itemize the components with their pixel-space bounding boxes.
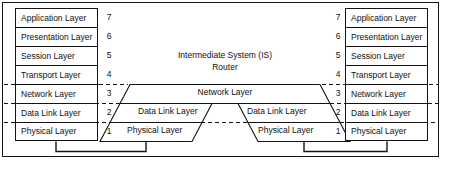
layer-label: Presentation Layer — [346, 33, 422, 42]
osi-layer-diagram: Application Layer Presentation Layer Ses… — [0, 0, 449, 172]
layer-label: Application Layer — [346, 14, 416, 23]
layer-label: Data Link Layer — [16, 109, 81, 118]
layer-label: Application Layer — [16, 14, 86, 23]
layer-box-network-left[interactable]: Network Layer — [15, 84, 98, 103]
is-physical-right-label[interactable]: Physical Layer — [258, 126, 313, 135]
intermediate-system-caption: Intermediate System (IS) Router — [128, 50, 322, 73]
left-protocol-stack: Application Layer Presentation Layer Ses… — [15, 8, 98, 141]
is-caption-line2: Router — [128, 62, 322, 74]
right-protocol-stack: Application Layer Presentation Layer Ses… — [345, 8, 428, 141]
layer-label: Transport Layer — [16, 71, 81, 80]
is-network-layer-label[interactable]: Network Layer — [128, 88, 322, 97]
layer-number: 6 — [101, 27, 117, 46]
layer-box-datalink-left[interactable]: Data Link Layer — [15, 103, 98, 122]
layer-number: 5 — [330, 46, 346, 65]
layer-label: Physical Layer — [16, 127, 76, 136]
layer-number: 2 — [330, 103, 346, 122]
layer-box-transport-right[interactable]: Transport Layer — [345, 65, 428, 84]
left-layer-numbers: 7 6 5 4 3 2 1 — [101, 8, 117, 141]
layer-number: 3 — [101, 84, 117, 103]
layer-number: 1 — [101, 122, 117, 141]
layer-number: 4 — [101, 65, 117, 84]
layer-label: Network Layer — [16, 90, 76, 99]
layer-box-datalink-right[interactable]: Data Link Layer — [345, 103, 428, 122]
layer-box-physical-left[interactable]: Physical Layer — [15, 122, 98, 141]
layer-number: 6 — [330, 27, 346, 46]
layer-box-presentation-left[interactable]: Presentation Layer — [15, 27, 98, 46]
is-caption-line1: Intermediate System (IS) — [128, 50, 322, 62]
is-datalink-right-label[interactable]: Data Link Layer — [247, 107, 307, 116]
layer-box-transport-left[interactable]: Transport Layer — [15, 65, 98, 84]
is-physical-left-label[interactable]: Physical Layer — [127, 126, 182, 135]
layer-box-application-left[interactable]: Application Layer — [15, 8, 98, 27]
layer-label: Physical Layer — [346, 127, 406, 136]
layer-box-network-right[interactable]: Network Layer — [345, 84, 428, 103]
layer-label: Data Link Layer — [346, 109, 411, 118]
right-layer-numbers: 7 6 5 4 3 2 1 — [330, 8, 346, 141]
layer-number: 1 — [330, 122, 346, 141]
layer-label: Session Layer — [346, 52, 405, 61]
layer-label: Network Layer — [346, 90, 406, 99]
layer-box-session-right[interactable]: Session Layer — [345, 46, 428, 65]
layer-box-presentation-right[interactable]: Presentation Layer — [345, 27, 428, 46]
layer-label: Session Layer — [16, 52, 75, 61]
layer-number: 7 — [101, 8, 117, 27]
layer-box-application-right[interactable]: Application Layer — [345, 8, 428, 27]
layer-number: 7 — [330, 8, 346, 27]
is-datalink-left-label[interactable]: Data Link Layer — [138, 107, 198, 116]
layer-box-physical-right[interactable]: Physical Layer — [345, 122, 428, 141]
layer-number: 3 — [330, 84, 346, 103]
layer-number: 4 — [330, 65, 346, 84]
layer-number: 5 — [101, 46, 117, 65]
layer-box-session-left[interactable]: Session Layer — [15, 46, 98, 65]
layer-number: 2 — [101, 103, 117, 122]
layer-label: Presentation Layer — [16, 33, 92, 42]
layer-label: Transport Layer — [346, 71, 411, 80]
